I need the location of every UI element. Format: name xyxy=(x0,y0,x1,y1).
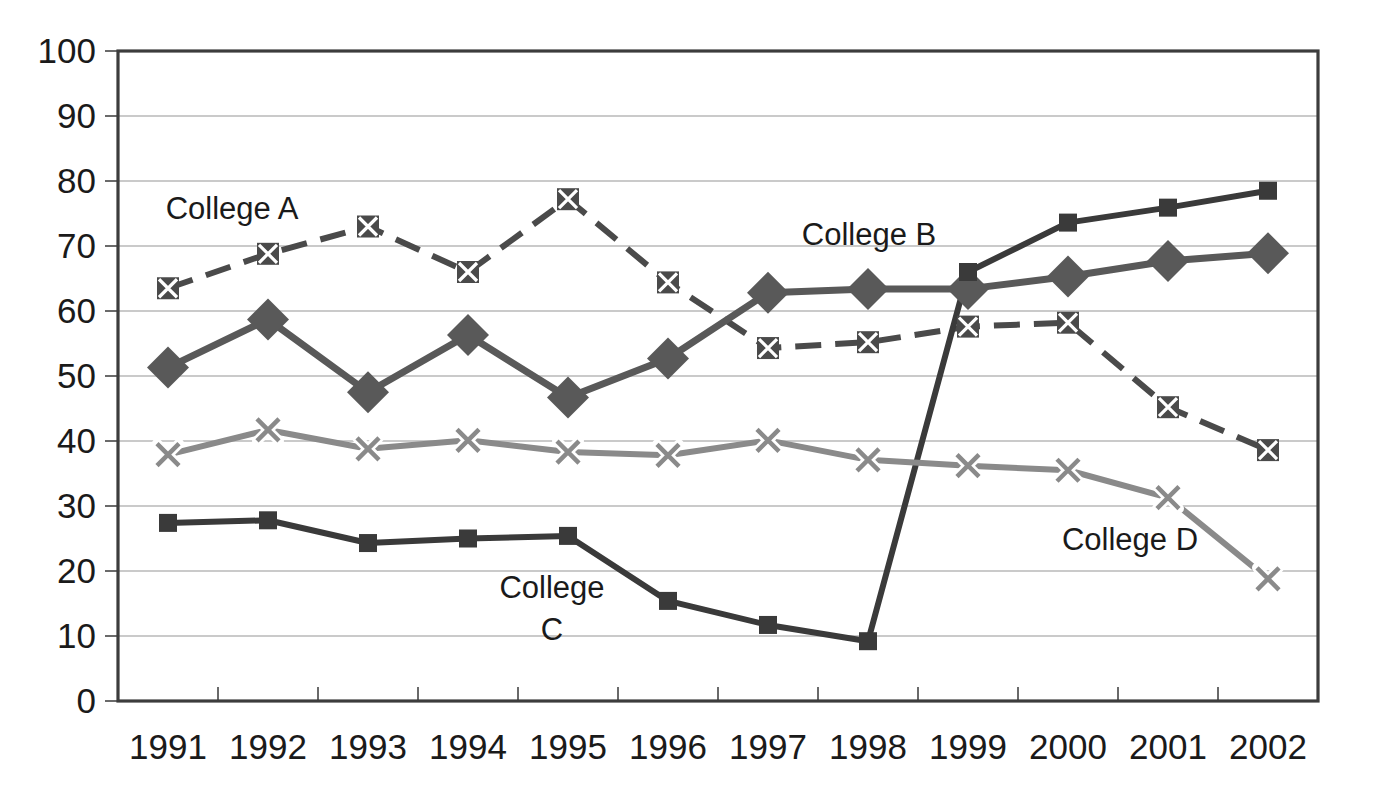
y-axis-tick-label: 70 xyxy=(57,226,96,265)
y-axis-tick-label: 60 xyxy=(57,291,96,330)
series-annotation-college-b: College B xyxy=(802,217,936,252)
x-axis-tick-label: 1997 xyxy=(729,727,807,766)
line-chart: 0102030405060708090100 19911992199319941… xyxy=(0,0,1382,801)
y-axis-tick-label: 90 xyxy=(57,96,96,135)
data-point-marker xyxy=(147,347,189,389)
y-axis-tick-label: 10 xyxy=(57,616,96,655)
x-axis-tick-label: 1992 xyxy=(229,727,307,766)
data-point-marker xyxy=(1247,232,1289,274)
data-point-marker xyxy=(1259,182,1277,200)
x-axis-tick-label: 1994 xyxy=(429,727,507,766)
y-axis-tick-label: 0 xyxy=(77,681,96,720)
x-tick-marks-group xyxy=(218,687,1218,701)
y-axis-tick-label: 40 xyxy=(57,421,96,460)
series-annotation-college-d: College D xyxy=(1062,522,1198,557)
y-axis-labels: 0102030405060708090100 xyxy=(38,31,96,720)
data-point-marker xyxy=(259,511,277,529)
data-point-marker xyxy=(547,376,589,418)
series-line-college-c xyxy=(168,191,1268,641)
x-axis-tick-label: 1999 xyxy=(929,727,1007,766)
x-axis-tick-label: 2000 xyxy=(1029,727,1107,766)
x-axis-tick-label: 2002 xyxy=(1229,727,1307,766)
series-markers-college-c xyxy=(159,182,1277,650)
x-axis-tick-label: 1996 xyxy=(629,727,707,766)
y-axis-tick-label: 30 xyxy=(57,486,96,525)
data-point-marker xyxy=(159,514,177,532)
y-axis-tick-label: 100 xyxy=(38,31,96,70)
data-point-marker xyxy=(1059,214,1077,232)
series-markers-college-d xyxy=(157,419,1279,590)
data-point-marker xyxy=(659,592,677,610)
data-point-marker xyxy=(447,314,489,356)
y-axis-tick-label: 20 xyxy=(57,551,96,590)
x-axis-tick-label: 1998 xyxy=(829,727,907,766)
x-axis-tick-label: 2001 xyxy=(1129,727,1207,766)
data-point-marker xyxy=(859,632,877,650)
data-point-marker xyxy=(759,616,777,634)
data-point-marker xyxy=(359,534,377,552)
y-tick-marks-group xyxy=(105,51,118,701)
data-point-marker xyxy=(459,530,477,548)
chart-container: 0102030405060708090100 19911992199319941… xyxy=(0,0,1382,801)
y-axis-tick-label: 80 xyxy=(57,161,96,200)
data-point-marker xyxy=(559,527,577,545)
x-axis-tick-label: 1995 xyxy=(529,727,607,766)
x-axis-labels: 1991199219931994199519961997199819992000… xyxy=(129,727,1307,766)
series-lines-group xyxy=(168,191,1268,641)
data-point-marker xyxy=(1047,256,1089,298)
x-axis-tick-label: 1991 xyxy=(129,727,207,766)
data-point-marker xyxy=(647,337,689,379)
data-point-marker xyxy=(747,272,789,314)
data-point-marker xyxy=(1159,199,1177,217)
data-point-marker xyxy=(959,263,977,281)
series-annotation-college-a: College A xyxy=(166,191,299,226)
y-axis-tick-label: 50 xyxy=(57,356,96,395)
x-axis-tick-label: 1993 xyxy=(329,727,407,766)
series-markers-group xyxy=(147,182,1289,650)
data-point-marker xyxy=(847,268,889,310)
series-annotations-group: College ACollege BCollegeCCollege D xyxy=(166,191,1198,647)
